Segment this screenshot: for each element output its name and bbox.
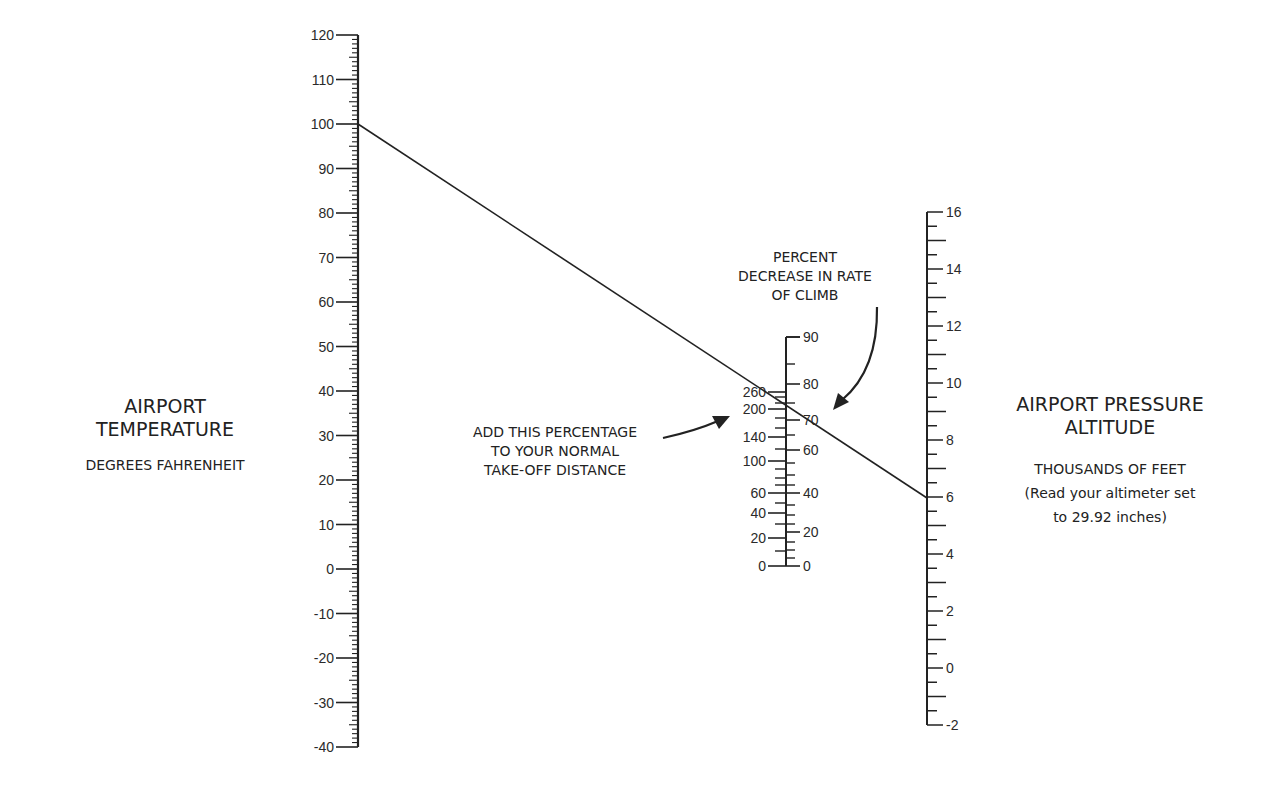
takeoff-note-line3: TAKE-OFF DISTANCE (430, 461, 680, 480)
altitude-tick-label: 14 (946, 261, 962, 277)
takeoff-note-line2: TO YOUR NORMAL (430, 442, 680, 461)
altitude-tick-label: 0 (946, 660, 954, 676)
temperature-scale: 1201101009080706050403020100-10-20-30-40 (311, 27, 358, 755)
altitude-title-line2: ALTITUDE (965, 416, 1255, 439)
temperature-tick-label: 120 (311, 27, 335, 43)
altitude-tick-label: 2 (946, 603, 954, 619)
takeoff-tick-label: 20 (750, 530, 766, 546)
temperature-subtitle: DEGREES FAHRENHEIT (20, 457, 310, 474)
takeoff-tick-label: 60 (750, 485, 766, 501)
takeoff-note: ADD THIS PERCENTAGE TO YOUR NORMAL TAKE-… (430, 423, 680, 480)
altitude-note-line1: (Read your altimeter set (965, 481, 1255, 505)
takeoff-tick-label: 200 (743, 401, 767, 417)
takeoff-tick-label: 100 (743, 453, 767, 469)
temperature-tick-label: 90 (318, 161, 334, 177)
climb-tick-label: 20 (803, 524, 819, 540)
temperature-tick-label: 70 (318, 250, 334, 266)
temperature-tick-label: 20 (318, 472, 334, 488)
climb-note-line2: DECREASE IN RATE (715, 267, 895, 286)
takeoff-note-line1: ADD THIS PERCENTAGE (430, 423, 680, 442)
altitude-title: AIRPORT PRESSURE ALTITUDE (965, 393, 1255, 439)
altitude-tick-label: -2 (946, 717, 959, 733)
altitude-subtitle: THOUSANDS OF FEET (Read your altimeter s… (965, 457, 1255, 529)
altitude-tick-label: 10 (946, 375, 962, 391)
climb-note: PERCENT DECREASE IN RATE OF CLIMB (715, 248, 895, 305)
temperature-tick-label: -30 (314, 695, 334, 711)
climb-arrow-icon (842, 307, 877, 400)
temperature-title: AIRPORT TEMPERATURE (40, 395, 290, 441)
altitude-tick-label: 8 (946, 432, 954, 448)
temperature-tick-label: -10 (314, 606, 334, 622)
altitude-tick-label: 16 (946, 204, 962, 220)
altitude-title-line1: AIRPORT PRESSURE (965, 393, 1255, 416)
temperature-tick-label: 110 (312, 72, 335, 88)
altitude-subtitle-line: THOUSANDS OF FEET (965, 457, 1255, 481)
temperature-tick-label: -40 (314, 739, 334, 755)
altitude-tick-label: 12 (946, 318, 962, 334)
climb-tick-label: 40 (803, 485, 819, 501)
altitude-tick-label: 4 (946, 546, 954, 562)
effect-scale: 90807060402002602001401006040200 (743, 329, 819, 574)
climb-note-line3: OF CLIMB (715, 286, 895, 305)
takeoff-tick-label: 40 (750, 505, 766, 521)
temperature-title-line1: AIRPORT (40, 395, 290, 418)
altitude-note-line2: to 29.92 inches) (965, 505, 1255, 529)
climb-tick-label: 90 (803, 329, 819, 345)
climb-tick-label: 80 (803, 376, 819, 392)
temperature-tick-label: 0 (326, 561, 334, 577)
altitude-tick-label: 6 (946, 489, 954, 505)
temperature-tick-label: 10 (318, 517, 334, 533)
temperature-tick-label: 100 (311, 116, 335, 132)
temperature-tick-label: 60 (318, 294, 334, 310)
temperature-tick-label: 80 (318, 205, 334, 221)
temperature-tick-label: 30 (318, 428, 334, 444)
takeoff-tick-label: 260 (743, 384, 767, 400)
takeoff-tick-label: 140 (743, 429, 767, 445)
altitude-scale: 1614121086420-2 (927, 204, 962, 733)
temperature-tick-label: 50 (318, 339, 334, 355)
temperature-tick-label: 40 (318, 383, 334, 399)
climb-note-line1: PERCENT (715, 248, 895, 267)
takeoff-tick-label: 0 (758, 558, 766, 574)
climb-tick-label: 60 (803, 442, 819, 458)
temperature-tick-label: -20 (314, 650, 334, 666)
temperature-title-line2: TEMPERATURE (40, 418, 290, 441)
climb-tick-label: 0 (803, 558, 811, 574)
